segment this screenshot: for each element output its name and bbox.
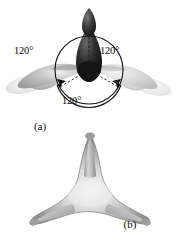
caption-panel-b: (b) bbox=[40, 219, 180, 230]
figure-root: 120° 120° 120° (a) bbox=[0, 0, 180, 240]
panel-a: 120° 120° 120° bbox=[0, 0, 180, 136]
angle-label-left: 120° bbox=[14, 46, 33, 57]
sp2-orbital-diagram bbox=[0, 0, 180, 136]
angle-label-right: 120° bbox=[100, 46, 119, 57]
angle-label-bottom: 120° bbox=[62, 96, 81, 107]
arm-tip-up bbox=[85, 133, 95, 140]
orbital-backlobe-top bbox=[82, 8, 96, 36]
composite-center-highlight bbox=[68, 181, 112, 207]
